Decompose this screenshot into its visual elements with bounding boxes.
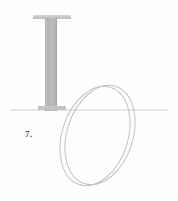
figure-number-label: 7.: [25, 130, 32, 139]
figure-canvas: 7.: [0, 0, 178, 201]
tilted-ring: [48, 76, 147, 194]
vertical-column: [33, 15, 71, 111]
diagram-svg: [0, 0, 178, 201]
column-shaft: [45, 18, 57, 111]
column-base-flange: [38, 106, 66, 110]
